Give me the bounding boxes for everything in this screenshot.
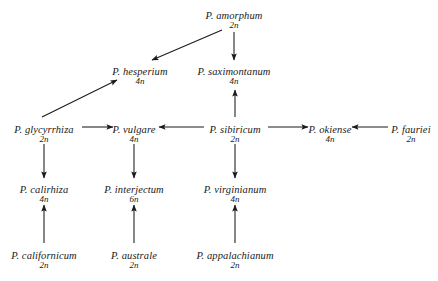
node-vulgare: P. vulgare4n — [113, 124, 156, 145]
node-virginianum: P. virginianum4n — [204, 184, 267, 205]
node-ploidy-label: 4n — [309, 135, 352, 145]
node-ploidy-label: 4n — [20, 195, 69, 205]
node-hesperium: P. hesperium4n — [112, 66, 167, 87]
node-glycyrrhiza: P. glycyrrhiza2n — [14, 124, 73, 145]
node-saximontanum: P. saximontanum4n — [197, 66, 270, 87]
edge-glycyrrhiza-to-hesperium — [42, 80, 117, 117]
node-ploidy-label: 2n — [209, 135, 260, 145]
node-ploidy-label: 2n — [111, 261, 157, 271]
node-ploidy-label: 4n — [113, 135, 156, 145]
node-ploidy-label: 2n — [14, 135, 73, 145]
node-ploidy-label: 2n — [206, 21, 263, 31]
node-ploidy-label: 6n — [104, 195, 164, 205]
node-interjectum: P. interjectum6n — [104, 184, 164, 205]
node-ploidy-label: 2n — [196, 261, 273, 271]
node-ploidy-label: 4n — [112, 77, 167, 87]
node-sibiricum: P. sibiricum2n — [209, 124, 260, 145]
edge-amorphum-to-hesperium — [152, 30, 222, 60]
node-ploidy-label: 2n — [11, 261, 76, 271]
node-calirhiza: P. calirhiza4n — [20, 184, 69, 205]
node-ploidy-label: 4n — [197, 77, 270, 87]
node-ploidy-label: 2n — [391, 135, 430, 145]
node-ploidy-label: 4n — [204, 195, 267, 205]
diagram-canvas: P. amorphum2nP. hesperium4nP. saximontan… — [0, 0, 438, 281]
node-amorphum: P. amorphum2n — [206, 10, 263, 31]
node-okiense: P. okiense4n — [309, 124, 352, 145]
node-australe: P. australe2n — [111, 250, 157, 271]
node-fauriei: P. fauriei2n — [391, 124, 430, 145]
node-appalachianum: P. appalachianum2n — [196, 250, 273, 271]
node-californicum: P. californicum2n — [11, 250, 76, 271]
